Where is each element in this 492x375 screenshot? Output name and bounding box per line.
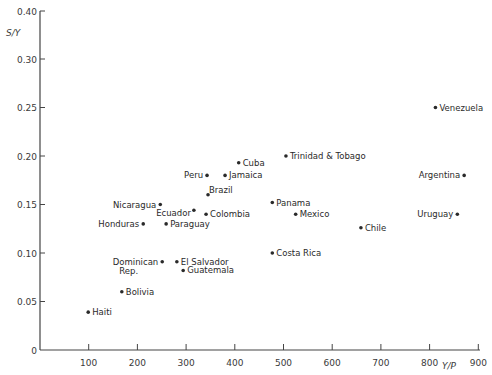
point-marker	[434, 106, 438, 110]
y-axis-ticks: 00.050.100.150.200.250.300.40	[17, 7, 45, 356]
data-point: Costa Rica	[270, 248, 321, 258]
point-label: Trinidad & Tobago	[289, 151, 366, 161]
point-marker	[284, 154, 288, 158]
point-marker	[181, 269, 185, 273]
point-label: Uruguay	[417, 209, 453, 219]
point-label: Costa Rica	[276, 248, 321, 258]
data-point: Haiti	[86, 307, 111, 317]
point-marker	[237, 161, 241, 165]
point-label: Chile	[365, 223, 386, 233]
x-tick-label: 200	[129, 358, 146, 368]
point-label: Paraguay	[170, 219, 210, 229]
point-marker	[86, 310, 90, 314]
data-point: Jamaica	[223, 170, 262, 180]
point-marker	[294, 212, 298, 216]
point-label: Jamaica	[228, 170, 262, 180]
point-marker	[205, 174, 209, 178]
x-tick-label: 600	[324, 358, 341, 368]
x-axis-ticks: 100200300400500600700800900	[80, 344, 487, 368]
data-point: Panama	[270, 198, 310, 208]
point-label: Mexico	[300, 209, 330, 219]
x-axis-title: Y/P	[442, 361, 457, 371]
data-points: VenezuelaTrinidad & TobagoCubaPeruJamaic…	[86, 103, 483, 318]
y-tick-label: 0.30	[17, 55, 37, 65]
data-point: Paraguay	[164, 219, 209, 229]
point-marker	[141, 222, 145, 226]
x-tick-label: 900	[470, 358, 487, 368]
data-point: Venezuela	[434, 103, 483, 113]
data-point: Bolivia	[120, 287, 154, 297]
x-tick-label: 100	[80, 358, 97, 368]
point-marker	[175, 260, 179, 264]
data-point: Cuba	[237, 158, 265, 168]
point-marker	[456, 212, 460, 216]
point-label: Peru	[184, 170, 203, 180]
x-tick-label: 800	[421, 358, 438, 368]
point-label: Cuba	[243, 158, 265, 168]
x-tick-label: 400	[226, 358, 243, 368]
scatter-chart: 00.050.100.150.200.250.300.40 1002003004…	[0, 0, 492, 375]
data-point: Honduras	[98, 219, 145, 229]
point-marker	[462, 174, 466, 178]
data-point: Brazil	[206, 185, 233, 197]
data-point: Nicaragua	[113, 200, 162, 210]
y-tick-label: 0.25	[17, 103, 37, 113]
point-marker	[359, 226, 363, 230]
y-tick-label: 0.20	[17, 152, 37, 162]
point-label: Panama	[276, 198, 310, 208]
point-marker	[158, 203, 162, 207]
y-tick-label: 0.05	[17, 297, 37, 307]
y-tick-label: 0.10	[17, 249, 37, 259]
point-marker	[120, 290, 124, 294]
point-marker	[160, 260, 164, 264]
x-tick-label: 700	[372, 358, 389, 368]
point-label: Venezuela	[439, 103, 483, 113]
point-label: Colombia	[210, 209, 250, 219]
y-axis-title: S/Y	[6, 28, 22, 38]
point-label: Nicaragua	[113, 200, 156, 210]
point-label: Honduras	[98, 219, 139, 229]
point-label: Ecuador	[156, 208, 191, 218]
data-point: DominicanRep.	[113, 257, 164, 276]
point-marker	[204, 212, 208, 216]
point-marker	[223, 174, 227, 178]
point-marker	[270, 251, 274, 255]
data-point: Uruguay	[417, 209, 459, 219]
data-point: Chile	[359, 223, 386, 233]
data-point: Argentina	[419, 170, 466, 180]
x-tick-label: 300	[178, 358, 195, 368]
y-tick-label: 0	[31, 346, 37, 356]
data-point: Peru	[184, 170, 209, 180]
data-point: Guatemala	[181, 265, 234, 275]
point-label: Argentina	[419, 170, 460, 180]
point-marker	[270, 201, 274, 205]
point-label: Bolivia	[126, 287, 154, 297]
axes	[40, 11, 480, 350]
data-point: Mexico	[294, 209, 329, 219]
point-marker	[164, 222, 168, 226]
y-tick-label: 0.40	[17, 7, 37, 17]
point-label: Haiti	[92, 307, 112, 317]
point-label: Brazil	[209, 185, 233, 195]
data-point: Trinidad & Tobago	[284, 151, 366, 161]
point-marker	[192, 209, 196, 213]
y-tick-label: 0.15	[17, 200, 37, 210]
data-point: Ecuador	[156, 208, 196, 218]
point-label: Rep.	[119, 266, 138, 276]
data-point: Colombia	[204, 209, 250, 219]
point-label: Guatemala	[187, 265, 234, 275]
x-tick-label: 500	[275, 358, 292, 368]
